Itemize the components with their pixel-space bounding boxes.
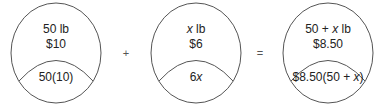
mixture-diagram: 50 lb $10 50(10) + x lb $6 6x = 50 + x l… bbox=[0, 0, 379, 108]
value-prefix: $8.50(50 + bbox=[292, 70, 353, 84]
equals-operator: = bbox=[257, 47, 263, 59]
circle-1-price: $10 bbox=[46, 37, 66, 51]
circle-3-quantity: 50 + x lb bbox=[305, 22, 351, 36]
circle-1-quantity: 50 lb bbox=[43, 22, 69, 36]
value-suffix: ) bbox=[360, 70, 364, 84]
circle-3-price: $8.50 bbox=[313, 37, 343, 51]
circle-1-outline bbox=[11, 3, 101, 103]
circle-1: 50 lb $10 50(10) bbox=[11, 3, 101, 103]
circle-2: x lb $6 6x bbox=[151, 3, 241, 103]
unit-lb: lb bbox=[338, 22, 351, 36]
circle-2-quantity: x lb bbox=[186, 22, 206, 36]
variable-x: x bbox=[195, 70, 203, 84]
unit-lb: lb bbox=[193, 22, 206, 36]
circle-2-value: 6x bbox=[190, 70, 204, 84]
circle-3: 50 + x lb $8.50 $8.50(50 + x) bbox=[283, 3, 373, 103]
circle-2-price: $6 bbox=[189, 37, 203, 51]
circle-2-outline bbox=[151, 3, 241, 103]
circle-3-value: $8.50(50 + x) bbox=[292, 70, 363, 84]
circle-1-value: 50(10) bbox=[39, 70, 74, 84]
circle-3-outline bbox=[283, 3, 373, 103]
plus-operator: + bbox=[123, 47, 129, 59]
quantity-prefix: 50 + bbox=[305, 22, 332, 36]
